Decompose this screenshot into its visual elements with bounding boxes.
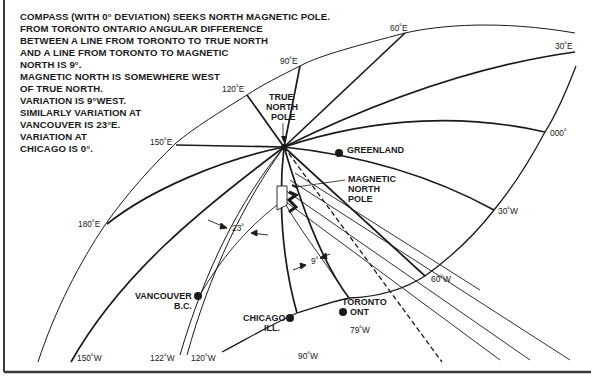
magnetic-variation-diagram: COMPASS (WITH 0° DEVIATION) SEEKS NORTH …	[0, 0, 591, 376]
vancouver-angle-label: 23˚	[232, 223, 244, 233]
chicago-dot	[286, 314, 294, 322]
toronto-angle-label: 9˚	[311, 256, 319, 266]
label-60w: 60˚W	[431, 274, 451, 284]
label-122w: 122˚W	[150, 353, 175, 363]
meridian-150w	[71, 147, 284, 362]
note-line: OF TRUE NORTH.	[20, 83, 103, 94]
meridian-150e	[176, 145, 284, 147]
note-line: COMPASS (WITH 0° DEVIATION) SEEKS NORTH …	[20, 11, 330, 22]
magnetic-north-label: POLE	[348, 194, 373, 204]
note-line: MAGNETIC NORTH IS SOMEWHERE WEST	[20, 71, 220, 82]
toronto-dot	[339, 308, 347, 316]
meridian-lines	[71, 33, 575, 362]
true-north-pole-marker	[281, 123, 287, 150]
label-90e: 90˚E	[280, 56, 298, 66]
label-120w: 120˚W	[191, 353, 216, 363]
label-180e: 180˚E	[78, 219, 101, 229]
chicago-label: ILL.	[264, 323, 280, 333]
magnetic-north-label: NORTH	[348, 184, 380, 194]
toronto-to-magnetic-line	[283, 200, 340, 285]
note-line: CHICAGO IS 0°.	[20, 143, 93, 154]
toronto-label: ONT	[350, 307, 370, 317]
vancouver-label: VANCOUVER	[135, 291, 192, 301]
note-line: VANCOUVER IS 23°E.	[20, 119, 120, 130]
meridian-180e	[107, 147, 284, 224]
note-line: FROM TORONTO ONTARIO ANGULAR DIFFERENCE	[20, 23, 263, 34]
vancouver-label: B.C.	[174, 301, 192, 311]
label-150e: 150˚E	[150, 137, 173, 147]
note-line: AND A LINE FROM TORONTO TO MAGNETIC	[20, 47, 229, 58]
note-line: VARIATION IS 9°WEST.	[20, 95, 126, 106]
vancouver-dot	[194, 292, 202, 300]
label-79w: 79˚W	[350, 325, 370, 335]
label-000: 000˚	[550, 128, 567, 138]
magnetic-bearing-lines	[200, 173, 570, 360]
label-30w: 30˚W	[498, 206, 518, 216]
note-line: VARIATION AT	[20, 131, 87, 142]
label-90w: 90˚W	[298, 351, 318, 361]
label-150w: 150˚W	[77, 353, 102, 363]
meridian-79w	[284, 147, 349, 298]
note-line: SIMILARLY VARIATION AT	[20, 107, 141, 118]
meridian-30e	[284, 52, 575, 147]
chicago-label: CHICAGO	[243, 313, 286, 323]
note-line: BETWEEN A LINE FROM TORONTO TO TRUE NORT…	[20, 35, 268, 46]
label-60e: 60˚E	[390, 23, 408, 33]
meridian-90w	[281, 147, 297, 313]
toronto-label: TORONTO	[342, 297, 387, 307]
meridian-000	[284, 121, 545, 147]
greenland-label: GREENLAND	[347, 145, 405, 155]
true-north-label: TRUE	[269, 92, 294, 102]
label-120e: 120˚E	[222, 84, 245, 94]
magnetic-north-label: MAGNETIC	[348, 174, 396, 184]
explanatory-notes: COMPASS (WITH 0° DEVIATION) SEEKS NORTH …	[20, 11, 330, 154]
note-line: NORTH IS 9°.	[20, 59, 82, 70]
true-north-label: POLE	[271, 112, 296, 122]
greenland-dot	[335, 149, 343, 157]
label-30e: 30˚E	[555, 41, 573, 51]
true-north-label: NORTH	[266, 102, 298, 112]
